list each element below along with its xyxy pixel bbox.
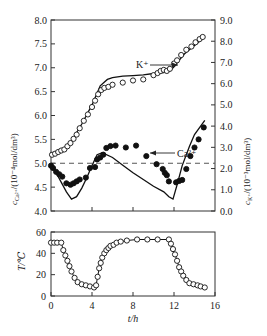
bottom-plot-series xyxy=(48,237,207,290)
right-y-tick-label: 4.0 xyxy=(220,121,233,132)
ca-data-point xyxy=(108,143,113,148)
right-y-tick-label: 9.0 xyxy=(220,15,233,26)
right-axis-label: cK⁺/(10⁻³mol/dm³) xyxy=(242,138,253,205)
top-plot-series xyxy=(48,34,206,199)
ca-data-point xyxy=(83,175,88,180)
temperature-point xyxy=(59,240,64,245)
x-tick-label: 8 xyxy=(131,300,136,311)
temperature-point xyxy=(69,269,74,274)
left-y-ticks: 4.04.55.05.56.06.57.07.58.0 xyxy=(35,15,56,217)
k-data-point xyxy=(74,132,79,137)
temperature-point xyxy=(67,264,72,269)
temperature-point xyxy=(98,260,103,265)
ca-data-point xyxy=(154,162,159,167)
right-y-tick-label: 3.0 xyxy=(220,142,233,153)
k-data-point xyxy=(184,47,189,52)
temperature-point xyxy=(124,238,129,243)
k-data-point xyxy=(141,77,146,82)
x-tick-label: 0 xyxy=(49,300,54,311)
left-y-tick-label: 7.0 xyxy=(35,62,48,73)
left-y-tick-label: 6.0 xyxy=(35,110,48,121)
ca-data-point xyxy=(144,153,149,158)
k-data-point xyxy=(130,78,135,83)
top-x-ticks xyxy=(92,207,174,211)
temperature-point xyxy=(118,239,123,244)
ca-label: Ca²⁺ xyxy=(177,148,196,159)
k-data-point xyxy=(92,98,97,103)
ca-data-point xyxy=(87,165,92,170)
ca-annotation: Ca²⁺ xyxy=(150,148,196,159)
k-data-point xyxy=(85,112,90,117)
right-y-tick-label: 2.0 xyxy=(220,163,233,174)
left-y-tick-label: 8.0 xyxy=(35,15,48,26)
k-data-point xyxy=(167,66,172,71)
left-y-tick-label: 4.0 xyxy=(35,206,48,217)
k-data-point xyxy=(120,80,125,85)
k-data-point xyxy=(110,82,115,87)
temperature-point xyxy=(97,266,102,271)
k-data-point xyxy=(189,44,194,49)
k-data-point xyxy=(77,126,82,131)
temperature-point xyxy=(65,258,70,263)
temperature-point xyxy=(202,285,207,290)
ca-data-point xyxy=(60,174,65,179)
bottom-y-tick-label: 40 xyxy=(36,248,46,259)
ca-data-point xyxy=(184,166,189,171)
temperature-point xyxy=(155,237,160,242)
temperature-point xyxy=(172,252,177,257)
k-data-point xyxy=(89,104,94,109)
k-data-point xyxy=(174,58,179,63)
right-y-tick-label: 6.0 xyxy=(220,78,233,89)
bottom-y-tick-label: 0 xyxy=(41,291,46,302)
bottom-y-ticks: 0204060 xyxy=(36,227,55,302)
ca-data-point xyxy=(133,143,138,148)
k-data-point xyxy=(81,118,86,123)
right-y-tick-label: 8.0 xyxy=(220,36,233,47)
temperature-point xyxy=(95,274,100,279)
right-y-tick-label: 7.0 xyxy=(220,57,233,68)
ca-data-point xyxy=(164,173,169,178)
temperature-point xyxy=(61,248,66,253)
ca-data-point xyxy=(101,152,106,157)
k-data-point xyxy=(200,34,205,39)
k-label: K⁺ xyxy=(136,59,149,70)
left-y-tick-label: 7.5 xyxy=(35,38,48,49)
arrow-left-icon xyxy=(150,151,156,156)
bottom-y-tick-label: 60 xyxy=(36,227,46,238)
right-y-ticks: 0.01.02.03.04.05.06.07.08.09.0 xyxy=(211,15,233,217)
x-axis-label: t/h xyxy=(128,313,139,324)
k-data-point xyxy=(179,52,184,57)
temperature-point xyxy=(63,253,68,258)
left-y-tick-label: 4.5 xyxy=(35,182,48,193)
left-y-tick-label: 5.5 xyxy=(35,134,48,145)
x-tick-label: 4 xyxy=(90,300,95,311)
x-tick-label: 16 xyxy=(210,300,220,311)
ca-data-point xyxy=(92,164,97,169)
bottom-y-axis-label: T/℃ xyxy=(16,251,27,271)
right-y-tick-label: 0.0 xyxy=(220,206,233,217)
ca-data-point xyxy=(123,145,128,150)
bottom-plot-frame xyxy=(51,232,215,296)
ca-data-point xyxy=(180,177,185,182)
chart: 4.04.55.05.56.06.57.07.58.0 0.01.02.03.0… xyxy=(0,0,267,336)
bottom-y-tick-label: 20 xyxy=(36,269,46,280)
bottom-x-ticks: 0481216 xyxy=(49,292,221,311)
ca-data-point xyxy=(113,143,118,148)
temperature-point xyxy=(170,246,175,251)
temperature-point xyxy=(174,258,179,263)
left-y-tick-label: 6.5 xyxy=(35,86,48,97)
ca-data-point xyxy=(77,177,82,182)
x-tick-label: 12 xyxy=(169,300,179,311)
right-y-tick-label: 1.0 xyxy=(220,184,233,195)
temperature-point xyxy=(135,237,140,242)
ca-data-point xyxy=(196,137,201,142)
ca-data-point xyxy=(201,125,206,130)
left-y-tick-label: 5.0 xyxy=(35,158,48,169)
temperature-point xyxy=(168,241,173,246)
right-y-tick-label: 5.0 xyxy=(220,99,233,110)
temperature-point xyxy=(94,283,99,288)
left-axis-label: cCa²⁺/(10⁻⁴mol/dm³) xyxy=(9,133,20,205)
ca-data-point xyxy=(166,179,171,184)
temperature-point xyxy=(145,237,150,242)
model-curve xyxy=(51,120,205,199)
